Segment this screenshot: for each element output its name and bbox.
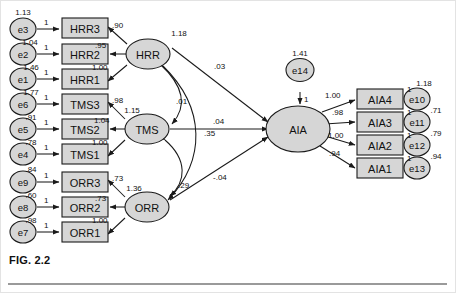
estimate-tms-orr-cov: .35 bbox=[204, 129, 216, 138]
path-orr-orr3 bbox=[108, 180, 125, 197]
indicator-label-tms3: TMS3 bbox=[70, 99, 99, 111]
error-label-e8: e8 bbox=[18, 202, 29, 213]
fixed-one-e6: 1 bbox=[44, 93, 49, 102]
loading-orr-orr2: .73 bbox=[95, 194, 107, 203]
latent-to-indicator-arrows-left bbox=[108, 27, 127, 234]
error-label-e3: e3 bbox=[18, 24, 29, 35]
estimate-tms-aia: .04 bbox=[213, 117, 225, 126]
fixed-one-e13: 1 bbox=[407, 154, 412, 163]
loading-orr-orr3: .73 bbox=[112, 174, 124, 183]
fixed-one-e11: 1 bbox=[407, 108, 412, 117]
error-variance-e2: 1.04 bbox=[22, 38, 38, 47]
error-label-e7: e7 bbox=[18, 227, 29, 238]
error-variance-e11: .71 bbox=[430, 106, 442, 115]
fixed-one-e3: 1 bbox=[44, 18, 49, 27]
loading-aia-aia2: 1.00 bbox=[328, 131, 344, 140]
indicator-label-orr3: ORR3 bbox=[70, 177, 101, 189]
loading-tms-tms1: 1.00 bbox=[92, 138, 108, 147]
error-variance-e8: .60 bbox=[25, 191, 37, 200]
path-hrr-aia bbox=[172, 48, 268, 122]
aia-block: e14 1.41 1 AIA bbox=[266, 49, 330, 153]
error-variance-e3: 1.13 bbox=[15, 8, 31, 17]
error-label-e11: e11 bbox=[409, 117, 424, 128]
error-label-e12: e12 bbox=[409, 140, 425, 151]
structural-estimate-labels: .03 .04 -.04 .01 .35 .29 bbox=[176, 62, 227, 190]
error-variance-e13: .94 bbox=[430, 152, 442, 161]
error-variance-e12: .79 bbox=[430, 129, 442, 138]
fixed-one-e14: 1 bbox=[304, 95, 309, 104]
error-label-e13: e13 bbox=[409, 163, 425, 174]
loading-hrr-hrr2: .95 bbox=[95, 41, 107, 50]
estimate-hrr-tms-cov: .01 bbox=[176, 97, 188, 106]
path-orr-orr1 bbox=[108, 218, 125, 234]
error-label-e6: e6 bbox=[18, 99, 29, 110]
fixed-one-e2: 1 bbox=[44, 43, 49, 52]
estimate-orr-aia: -.04 bbox=[213, 173, 227, 182]
error-label-e10: e10 bbox=[409, 94, 425, 105]
path-hrr-hrr3 bbox=[108, 27, 127, 44]
indicator-label-hrr2: HRR2 bbox=[70, 49, 100, 61]
error-variance-e10: 1.18 bbox=[416, 79, 432, 88]
indicator-label-aia2: AIA2 bbox=[368, 140, 392, 152]
error-variance-e4: .78 bbox=[25, 138, 37, 147]
latent-label-tms: TMS bbox=[135, 124, 158, 136]
figure-caption: FIG. 2.2 bbox=[9, 254, 50, 266]
error-variance-e5: .91 bbox=[25, 113, 37, 122]
indicator-label-orr1: ORR1 bbox=[70, 227, 101, 239]
latent-variance-tms: 1.15 bbox=[124, 106, 140, 115]
figure-caption-bar: FIG. 2.2 bbox=[0, 246, 455, 292]
path-hrr-hrr1 bbox=[108, 65, 127, 81]
caption-divider bbox=[8, 283, 447, 285]
indicator-label-aia1: AIA1 bbox=[368, 163, 392, 175]
loading-tms-tms3: .98 bbox=[112, 96, 124, 105]
fixed-one-e5: 1 bbox=[44, 118, 49, 127]
indicator-label-tms1: TMS1 bbox=[70, 149, 99, 161]
fixed-one-e7: 1 bbox=[44, 221, 49, 230]
indicator-label-hrr3: HRR3 bbox=[70, 23, 100, 35]
error-variance-e14: 1.41 bbox=[292, 49, 308, 58]
indicator-label-orr2: ORR2 bbox=[70, 202, 101, 214]
loading-hrr-hrr1: 1.00 bbox=[92, 63, 108, 72]
latent-variance-hrr: 1.18 bbox=[171, 29, 187, 38]
curve-hrr-tms bbox=[160, 64, 181, 124]
fixed-one-e10: 1 bbox=[407, 85, 412, 94]
error-label-e4: e4 bbox=[18, 149, 29, 160]
error-label-e9: e9 bbox=[18, 177, 29, 188]
path-tms-tms1 bbox=[108, 140, 125, 156]
error-label-e2: e2 bbox=[18, 49, 29, 60]
indicator-label-aia3: AIA3 bbox=[368, 117, 392, 129]
loading-tms-tms2: 1.04 bbox=[94, 116, 110, 125]
latent-label-aia: AIA bbox=[289, 124, 307, 136]
loading-orr-orr1: 1.00 bbox=[92, 216, 108, 225]
indicator-nodes-left: HRR3 HRR2 HRR1 TMS3 TMS2 TMS1 ORR3 ORR2 … bbox=[62, 18, 108, 242]
fixed-one-e8: 1 bbox=[44, 196, 49, 205]
error-variance-e6: 1.77 bbox=[23, 88, 39, 97]
error-variance-e7: .98 bbox=[25, 216, 37, 225]
loading-aia-aia4: 1.00 bbox=[325, 91, 341, 100]
latent-label-hrr: HRR bbox=[136, 49, 160, 61]
error-label-e14: e14 bbox=[292, 65, 308, 76]
loading-aia-aia3: .98 bbox=[332, 108, 344, 117]
error-nodes-left: e3 1.13 e2 1.04 e1 1.46 e6 1.77 e5 .91 e… bbox=[10, 8, 39, 244]
latent-nodes-left: HRR 1.18 TMS 1.15 ORR 1.36 bbox=[124, 29, 187, 223]
error-label-e5: e5 bbox=[18, 124, 29, 135]
fixed-one-e4: 1 bbox=[44, 143, 49, 152]
loading-hrr-hrr3: .90 bbox=[112, 21, 124, 30]
latent-label-orr: ORR bbox=[135, 202, 160, 214]
error-variance-e9: .84 bbox=[25, 165, 37, 174]
indicator-label-hrr1: HRR1 bbox=[70, 74, 100, 86]
fixed-one-e9: 1 bbox=[44, 171, 49, 180]
loading-aia-aia1: .94 bbox=[329, 149, 341, 158]
indicator-label-tms2: TMS2 bbox=[70, 124, 99, 136]
error-nodes-right: e10 1.18 e11 .71 e12 .79 e13 .94 bbox=[404, 79, 442, 180]
estimate-hrr-orr-cov: .29 bbox=[178, 181, 190, 190]
fixed-one-e12: 1 bbox=[407, 131, 412, 140]
fixed-one-e1: 1 bbox=[44, 68, 49, 77]
indicator-label-aia4: AIA4 bbox=[368, 94, 392, 106]
fixed-one-labels-left: 1 1 1 1 1 1 1 1 1 bbox=[44, 18, 49, 230]
error-label-e1: e1 bbox=[18, 74, 29, 85]
latent-variance-orr: 1.36 bbox=[126, 184, 142, 193]
estimate-hrr-aia: .03 bbox=[214, 62, 226, 71]
indicator-nodes-right: AIA4 AIA3 AIA2 AIA1 bbox=[357, 89, 403, 178]
